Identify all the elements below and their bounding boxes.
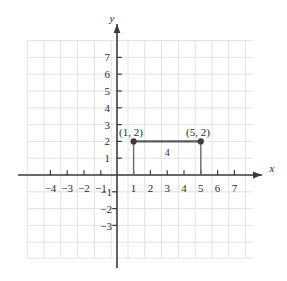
graph-svg: −4 −3 −2 −1 1 2 3 4 5 6 7 7 bbox=[0, 0, 287, 281]
y-tick-label: 4 bbox=[105, 102, 111, 114]
y-tick-label: −3 bbox=[100, 220, 112, 232]
y-tick-label: 5 bbox=[105, 85, 111, 97]
x-tick-label: 2 bbox=[148, 182, 154, 194]
point-marker-left bbox=[131, 138, 137, 144]
grid-lines bbox=[27, 41, 253, 259]
x-tick-label: −2 bbox=[78, 182, 90, 194]
segment-length-label: 4 bbox=[165, 147, 170, 158]
y-tick-label: 6 bbox=[105, 68, 111, 80]
x-tick-label: 6 bbox=[215, 182, 221, 194]
point-label-left: (1, 2) bbox=[119, 126, 143, 139]
y-tick-label: −2 bbox=[100, 203, 112, 215]
x-tick-label: 1 bbox=[131, 182, 137, 194]
point-label-right: (5, 2) bbox=[186, 126, 210, 139]
x-tick-label: 5 bbox=[198, 182, 204, 194]
y-tick-label: 7 bbox=[105, 51, 111, 63]
coordinate-plane-figure: −4 −3 −2 −1 1 2 3 4 5 6 7 7 bbox=[0, 0, 287, 281]
x-tick-label: 4 bbox=[181, 182, 187, 194]
y-tick-label: 3 bbox=[105, 119, 111, 131]
x-tick-label: −3 bbox=[61, 182, 73, 194]
x-tick-label: −4 bbox=[45, 182, 57, 194]
y-axis bbox=[114, 24, 121, 268]
y-axis-label: y bbox=[109, 12, 115, 24]
y-tick-label: −1 bbox=[100, 186, 112, 198]
x-tick-label: 7 bbox=[232, 182, 238, 194]
x-axis-label: x bbox=[269, 162, 275, 174]
point-marker-right bbox=[198, 138, 204, 144]
x-axis bbox=[18, 172, 262, 179]
y-tick-label: 1 bbox=[105, 152, 111, 164]
x-axis-arrow-icon bbox=[253, 172, 262, 179]
y-tick-label: 2 bbox=[105, 135, 111, 147]
y-axis-arrow-icon bbox=[114, 24, 121, 33]
x-tick-label: 3 bbox=[164, 182, 170, 194]
